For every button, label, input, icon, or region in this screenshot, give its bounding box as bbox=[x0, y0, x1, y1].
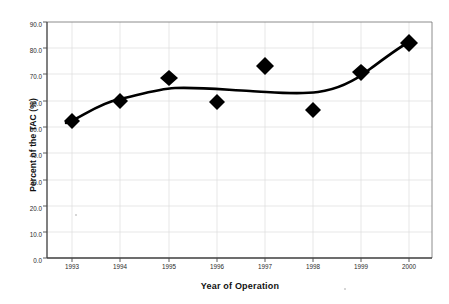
chart-figure: Percent of the TAC (%) Year of Operation… bbox=[0, 0, 449, 304]
scan-speck bbox=[75, 214, 77, 216]
scan-speck bbox=[344, 288, 346, 290]
plot-canvas bbox=[0, 0, 449, 304]
plot-background bbox=[47, 22, 432, 258]
